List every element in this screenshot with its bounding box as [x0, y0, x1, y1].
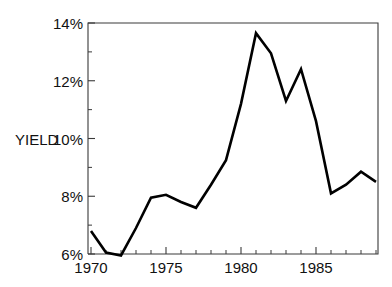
x-tick-label-1980: 1980 — [224, 259, 257, 276]
x-tick-label-1985: 1985 — [299, 259, 332, 276]
chart-container: 14% 12% 10% 8% 6% YIELD 1970 1975 1980 1… — [0, 0, 392, 287]
yield-line-chart: 14% 12% 10% 8% 6% YIELD 1970 1975 1980 1… — [0, 0, 392, 287]
y-axis-title: YIELD — [15, 131, 59, 148]
x-tick-label-1975: 1975 — [149, 259, 182, 276]
y-tick-label-14: 14% — [53, 15, 83, 32]
y-tick-label-8: 8% — [61, 188, 83, 205]
x-tick-label-1970: 1970 — [74, 259, 107, 276]
y-tick-label-12: 12% — [53, 73, 83, 90]
